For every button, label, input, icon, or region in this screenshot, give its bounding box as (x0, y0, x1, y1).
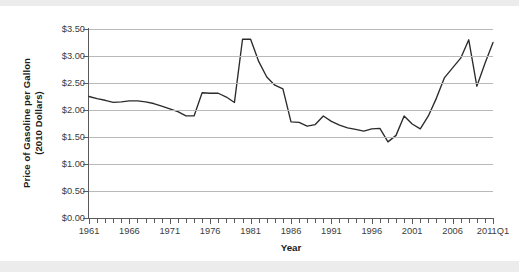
x-axis-tick-label: 1986 (281, 226, 302, 236)
y-axis-title-line2: (2010 Dollars) (32, 58, 44, 188)
x-axis-tick-minor (299, 219, 300, 223)
x-axis-tick-minor (477, 219, 478, 223)
y-axis-tick-label: $1.50 (43, 133, 85, 142)
x-axis-tick-minor (178, 219, 179, 223)
x-axis-tick-minor (436, 219, 437, 223)
x-axis-tick-minor (283, 219, 284, 223)
x-axis-tick-minor (420, 219, 421, 223)
x-axis-tick-minor (380, 219, 381, 223)
x-axis-tick-label: 1991 (321, 226, 342, 236)
y-axis-tick-labels: $0.00$0.50$1.00$1.50$2.00$2.50$3.00$3.50 (43, 6, 85, 261)
x-axis-tick-minor (97, 219, 98, 223)
x-axis-ticks (89, 219, 493, 224)
gridline (89, 110, 493, 111)
x-axis-tick-minor (388, 219, 389, 223)
gridline (89, 137, 493, 138)
y-axis-tick (83, 164, 89, 165)
x-axis-tick-minor (396, 219, 397, 223)
x-axis-tick-label: 2011Q1 (477, 226, 509, 236)
x-axis-tick-minor (323, 219, 324, 223)
x-axis-tick-minor (202, 219, 203, 223)
x-axis-tick-minor (226, 219, 227, 223)
x-axis-tick-label: 1981 (240, 226, 261, 236)
x-axis-tick-minor (404, 219, 405, 223)
x-axis-tick-minor (243, 219, 244, 223)
y-axis-tick-label: $3.50 (43, 25, 85, 34)
x-axis-tick-major (251, 219, 252, 224)
x-axis-tick-minor (364, 219, 365, 223)
x-axis-tick-label: 2006 (442, 226, 463, 236)
x-axis-tick-major (372, 219, 373, 224)
y-axis-tick (83, 29, 89, 30)
x-axis-tick-major (210, 219, 211, 224)
y-axis-tick (83, 137, 89, 138)
gridline (89, 164, 493, 165)
x-axis-tick-minor (146, 219, 147, 223)
x-axis-tick-minor (194, 219, 195, 223)
x-axis-tick-minor (137, 219, 138, 223)
x-axis-tick-label: 1971 (159, 226, 180, 236)
x-axis-tick-minor (234, 219, 235, 223)
x-axis-tick-major (331, 219, 332, 224)
x-axis-tick-minor (218, 219, 219, 223)
gridline (89, 83, 493, 84)
gridline (89, 29, 493, 30)
y-axis-tick-label: $3.00 (43, 52, 85, 61)
x-axis-tick-minor (469, 219, 470, 223)
x-axis-tick-major (129, 219, 130, 224)
x-axis-tick-minor (162, 219, 163, 223)
x-axis-tick-minor (105, 219, 106, 223)
x-axis-tick-minor (113, 219, 114, 223)
x-axis-tick-minor (121, 219, 122, 223)
x-axis-tick-major (170, 219, 171, 224)
y-axis-title-line1: Price of Gasoline per Gallon (21, 58, 32, 188)
y-axis-tick-label: $2.50 (43, 79, 85, 88)
gridline (89, 191, 493, 192)
x-axis-tick-minor (307, 219, 308, 223)
x-axis-tick-major (89, 219, 90, 224)
y-axis-tick (83, 218, 89, 219)
x-axis-tick-minor (275, 219, 276, 223)
x-axis-tick-minor (428, 219, 429, 223)
y-axis-tick-label: $0.50 (43, 187, 85, 196)
x-axis-tick-minor (461, 219, 462, 223)
x-axis-tick-minor (267, 219, 268, 223)
x-axis-tick-label: 1996 (361, 226, 382, 236)
x-axis-tick-major (493, 219, 494, 224)
x-axis-tick-minor (339, 219, 340, 223)
y-axis-tick-label: $1.00 (43, 160, 85, 169)
x-axis-tick-minor (348, 219, 349, 223)
x-axis-tick-minor (356, 219, 357, 223)
x-axis-tick-major (412, 219, 413, 224)
x-axis-tick-minor (315, 219, 316, 223)
x-axis-tick-major (453, 219, 454, 224)
x-axis-tick-label: 1966 (119, 226, 140, 236)
y-axis-tick (83, 110, 89, 111)
x-axis-tick-major (291, 219, 292, 224)
x-axis-tick-minor (186, 219, 187, 223)
page-band-bottom (0, 261, 519, 272)
plot-area (89, 29, 493, 218)
gasoline-price-chart: Price of Gasoline per Gallon (2010 Dolla… (0, 6, 519, 261)
y-axis-tick (83, 56, 89, 57)
price-line-series (89, 29, 493, 218)
x-axis-tick-minor (259, 219, 260, 223)
x-axis-tick-minor (485, 219, 486, 223)
y-axis-tick-label: $0.00 (43, 214, 85, 223)
gridline (89, 56, 493, 57)
x-axis-tick-label: 2001 (402, 226, 423, 236)
x-axis-tick-label: 1976 (200, 226, 221, 236)
x-axis-tick-minor (445, 219, 446, 223)
x-axis-tick-minor (154, 219, 155, 223)
x-axis-tick-label: 1961 (79, 226, 100, 236)
y-axis-tick (83, 83, 89, 84)
x-axis-title: Year (89, 242, 493, 253)
x-axis-tick-labels: 1961196619711976198119861991199620012006… (0, 226, 519, 240)
y-axis-tick-label: $2.00 (43, 106, 85, 115)
y-axis-tick (83, 191, 89, 192)
